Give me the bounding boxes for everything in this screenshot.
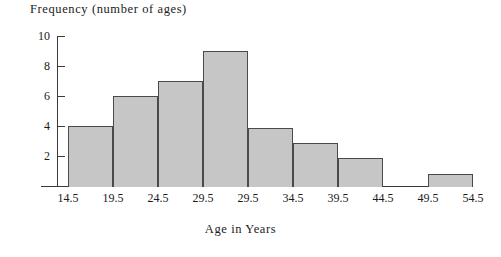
y-axis-line: [57, 36, 58, 186]
x-tick-label: 44.5: [362, 192, 404, 205]
x-tick-label: 39.5: [317, 192, 359, 205]
y-tick-label-2-wrap: 2: [22, 150, 50, 162]
y-tick-label-4-wrap: 4: [22, 120, 50, 132]
y-tick-label-10-wrap: 10: [22, 30, 50, 42]
histogram-bar: [428, 174, 473, 187]
histogram-bar: [293, 143, 338, 187]
x-tick-label: 19.5: [92, 192, 134, 205]
x-axis-caption: Age in Years: [0, 222, 501, 237]
x-tick-label: 29.5: [227, 192, 269, 205]
x-tick-label: 24.5: [137, 192, 179, 205]
histogram-bar: [338, 158, 383, 187]
y-tick-label-6-wrap: 6: [22, 90, 50, 102]
y-tick-label-8-wrap: 8: [22, 60, 50, 72]
x-tick-label: 54.5: [452, 192, 494, 205]
x-tick-label: 29.5: [182, 192, 224, 205]
y-tick-mark-2: [57, 156, 65, 157]
plot-area: 2 4 6 8 10 14.5 19.5 24.5 29.5: [0, 0, 501, 257]
histogram-bar: [68, 126, 113, 187]
histogram-bar: [158, 81, 203, 187]
histogram-bar: [203, 51, 248, 187]
y-tick-mark-6: [57, 96, 65, 97]
x-axis-caption-text: Age in Years: [205, 222, 276, 236]
y-tick-mark-8: [57, 66, 65, 67]
y-tick-label-10: 10: [26, 30, 50, 42]
y-tick-mark-10: [57, 36, 65, 37]
y-tick-label-8: 8: [26, 60, 50, 72]
histogram-figure: Frequency (number of ages) 2 4 6 8 10: [0, 0, 501, 257]
y-tick-label-4: 4: [26, 120, 50, 132]
x-tick-label: 34.5: [272, 192, 314, 205]
histogram-bar: [113, 96, 158, 187]
y-tick-label-6: 6: [26, 90, 50, 102]
y-tick-mark-4: [57, 126, 65, 127]
y-tick-label-2: 2: [26, 150, 50, 162]
histogram-bar: [248, 128, 293, 187]
x-tick-label: 14.5: [47, 192, 89, 205]
x-tick-label: 49.5: [407, 192, 449, 205]
